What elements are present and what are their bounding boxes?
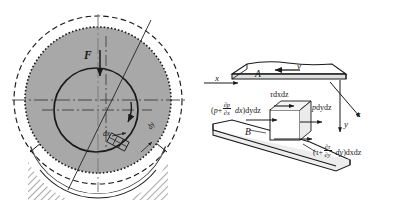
z-axis-label: z <box>357 110 361 119</box>
fraction-numerator: ∂p <box>223 101 231 109</box>
pressure-left-area: dydz <box>245 106 261 115</box>
shear-bottom-label: (τ+∂τ∂y dy)dxdz <box>313 143 361 159</box>
pressure-left-label: (p+∂p∂x dx)dydz <box>211 101 261 117</box>
element-dx-label: dx <box>103 130 110 138</box>
shear-bottom-area: dxdz <box>346 148 362 157</box>
x-axis-label: x <box>215 74 219 83</box>
figure-canvas <box>0 0 395 210</box>
load-force-label: F <box>84 50 92 62</box>
shear-top-area: dxdz <box>273 90 289 99</box>
pressure-right-label: pdydz <box>312 104 332 112</box>
y-axis-label: y <box>344 120 348 129</box>
pressure-left-dx: dx <box>235 106 243 115</box>
fraction-denominator: ∂y <box>324 151 332 158</box>
shear-top-label: τdxdz <box>270 91 288 99</box>
plus-sign: + <box>319 148 324 157</box>
velocity-label: v <box>297 62 301 71</box>
shear-gradient-fraction: ∂τ∂y <box>324 143 332 159</box>
pressure-gradient-fraction: ∂p∂x <box>223 101 231 117</box>
pressure-right-area: dydz <box>316 103 332 112</box>
technical-figure: F dx dy x z y A B v τdxdz pdydz (p+∂p∂x … <box>0 0 395 210</box>
z-axis <box>330 82 360 117</box>
fixed-plate-label: B <box>245 128 251 138</box>
fraction-denominator: ∂x <box>223 109 231 116</box>
plus-sign: + <box>218 106 223 115</box>
shear-bottom-dy: dy <box>336 148 344 157</box>
journal-bearing-group <box>12 14 186 206</box>
moving-plate-label: A <box>255 70 261 80</box>
fraction-numerator: ∂τ <box>324 143 332 151</box>
